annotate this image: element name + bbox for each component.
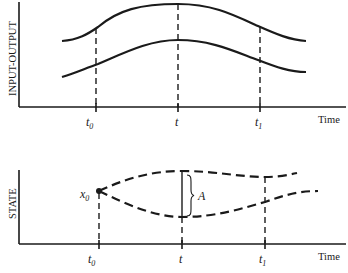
tick-label-t1: t1 [255, 115, 262, 131]
tick-label-t: t [175, 115, 179, 129]
lower-state-trajectory [99, 191, 318, 217]
tick-label-t0: t0 [88, 252, 95, 268]
input-output-panel: INPUT-OUTPUT t0 t t1 Time [7, 2, 346, 131]
upper-io-curve [62, 4, 306, 41]
tick-label-t: t [179, 252, 183, 266]
upper-state-trajectory [99, 171, 297, 191]
gap-label-a: A [197, 189, 206, 203]
tick-label-t1: t1 [259, 252, 266, 268]
x-axis-label-time: Time [318, 114, 340, 125]
lower-io-curve [62, 40, 306, 77]
state-panel: A x0 STATE t0 t t1 Time [7, 170, 346, 268]
tick-label-t0: t0 [86, 115, 93, 131]
x-axis-label-time: Time [318, 251, 340, 262]
y-axis-label-input-output: INPUT-OUTPUT [7, 21, 18, 96]
y-axis-label-state: STATE [7, 188, 18, 219]
brace-icon [187, 175, 194, 216]
diagram: INPUT-OUTPUT t0 t t1 Time A x0 STATE t0 [0, 0, 348, 273]
initial-state-point [96, 188, 102, 194]
initial-state-label: x0 [79, 187, 89, 203]
